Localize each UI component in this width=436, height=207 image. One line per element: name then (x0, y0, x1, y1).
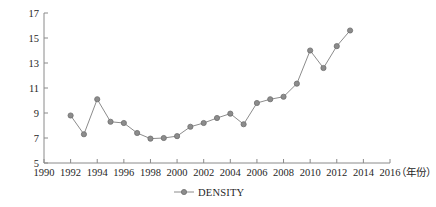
data-point-marker (334, 44, 339, 49)
data-point-marker (121, 120, 126, 125)
data-point-marker (308, 48, 313, 53)
data-point-marker (188, 124, 193, 129)
x-axis-tick-label: 2004 (220, 167, 242, 178)
x-axis: 1990199219941996199820002002200420062008… (34, 159, 436, 178)
data-point-marker (321, 65, 326, 70)
x-axis-tick-label: 1998 (140, 167, 161, 178)
x-axis-tick-label: 1990 (34, 167, 55, 178)
y-axis-tick-label: 17 (29, 8, 40, 19)
data-point-marker (68, 113, 73, 118)
x-axis-tick-label: 2008 (273, 167, 294, 178)
data-point-marker (294, 81, 299, 86)
data-point-marker (135, 130, 140, 135)
data-point-marker (108, 119, 113, 124)
x-axis-tick-label: 2002 (193, 167, 214, 178)
y-axis-tick-label: 9 (34, 108, 39, 119)
chart-legend: DENSITY (174, 187, 245, 198)
x-axis-tick-label: 2006 (246, 167, 267, 178)
x-axis-tick-label: 2012 (326, 167, 347, 178)
y-axis: 57911131517 (29, 8, 49, 169)
x-axis-tick-label: 1996 (113, 167, 134, 178)
y-axis-tick-label: 11 (29, 83, 39, 94)
legend-entry-label: DENSITY (198, 187, 245, 198)
line-chart-plot: 57911131517 1990199219941996199820002002… (0, 0, 436, 207)
data-point-marker (228, 111, 233, 116)
data-point-marker (81, 132, 86, 137)
data-point-marker (201, 120, 206, 125)
data-point-marker (347, 28, 352, 33)
data-point-marker (268, 97, 273, 102)
y-axis-tick-label: 13 (29, 58, 40, 69)
data-series-density (68, 28, 353, 141)
y-axis-tick-label: 7 (34, 133, 39, 144)
x-axis-tick-label: 1992 (60, 167, 81, 178)
x-axis-tick-label: 2014 (353, 167, 375, 178)
data-point-marker (241, 122, 246, 127)
chart-container: 57911131517 1990199219941996199820002002… (0, 0, 436, 207)
data-point-marker (174, 134, 179, 139)
data-point-marker (148, 136, 153, 141)
x-axis-tick-label: 2010 (300, 167, 321, 178)
y-axis-tick-label: 15 (29, 33, 40, 44)
data-point-marker (254, 100, 259, 105)
x-axis-tick-label: 1994 (87, 167, 109, 178)
legend-marker-icon (181, 189, 186, 194)
data-point-marker (161, 135, 166, 140)
x-axis-unit-label: （年份） (396, 166, 436, 178)
data-point-marker (214, 115, 219, 120)
x-axis-tick-label: 2000 (167, 167, 188, 178)
data-point-marker (281, 94, 286, 99)
data-point-marker (95, 97, 100, 102)
